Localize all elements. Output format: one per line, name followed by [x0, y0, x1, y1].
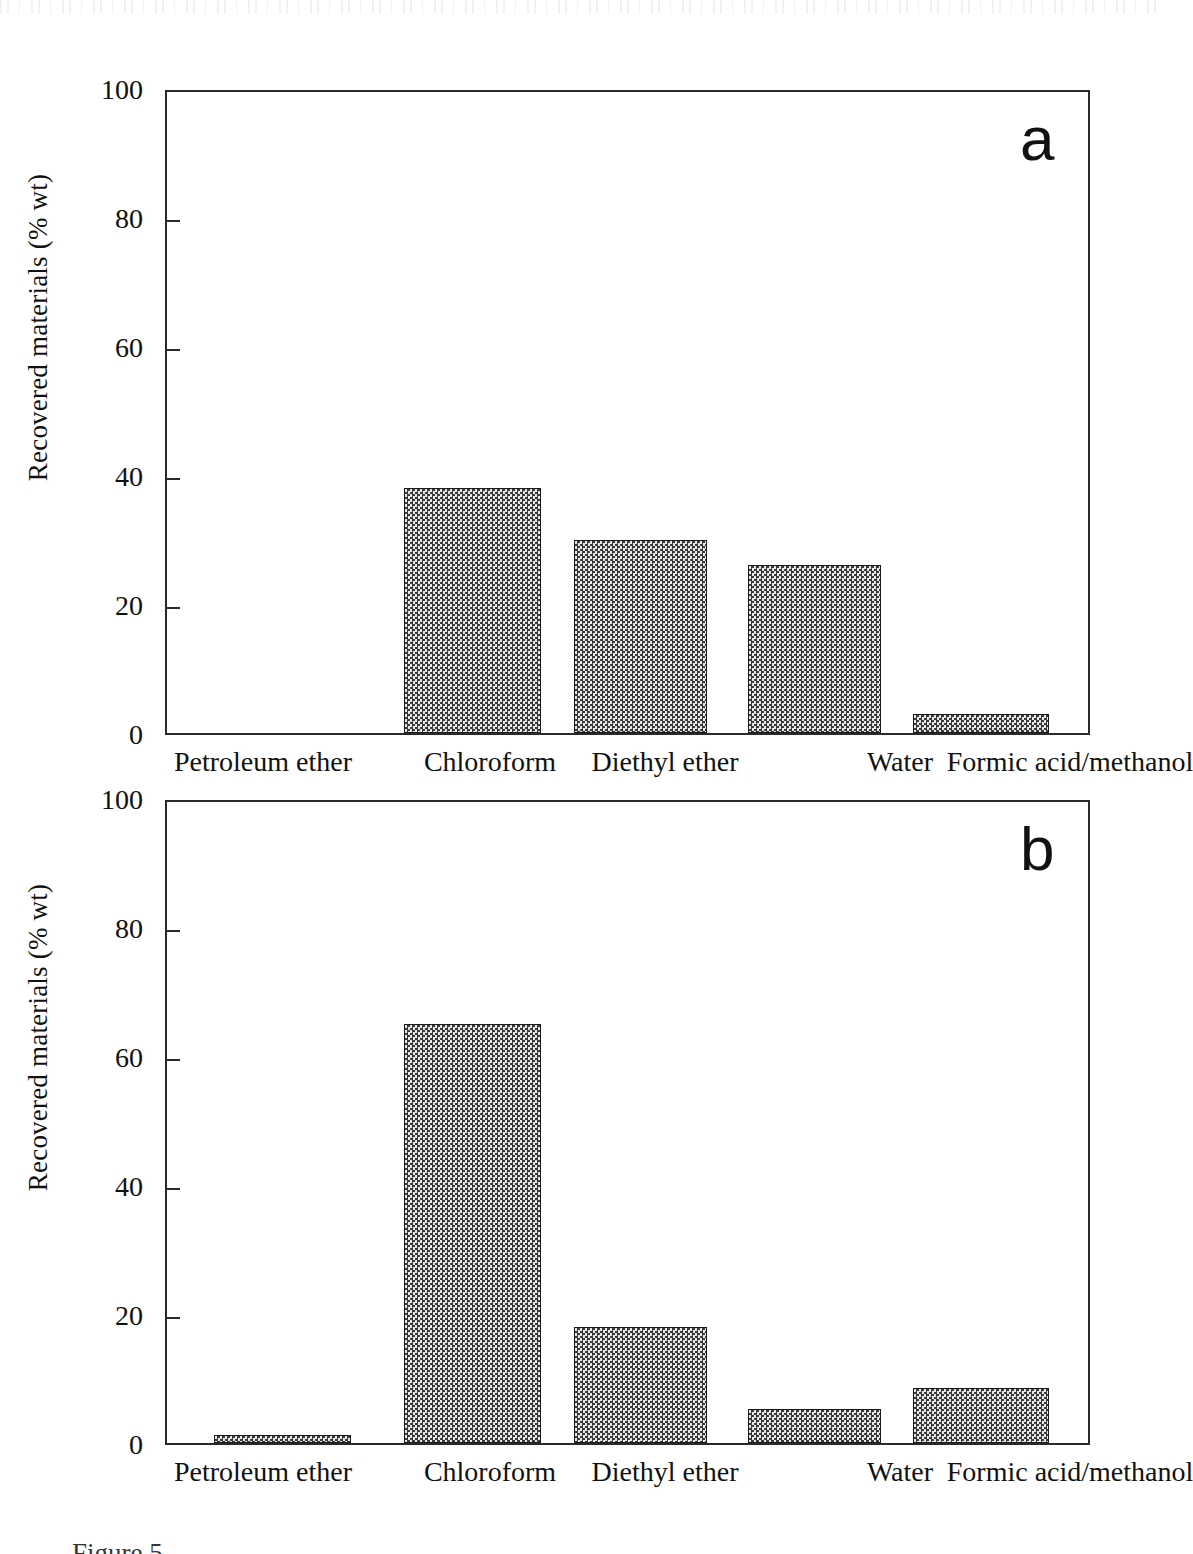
bar-a-3: [748, 565, 881, 733]
y-tick-label-a-80: 80: [115, 203, 143, 235]
x-label-a-1: Chloroform: [424, 746, 556, 778]
y-axis-title-b: Recovered materials (% wt): [23, 818, 54, 1258]
x-label-b-4: Formic acid/methanol: [947, 1456, 1193, 1488]
x-label-a-4: Formic acid/methanol: [947, 746, 1193, 778]
bar-b-4: [913, 1388, 1048, 1443]
bar-a-2: [574, 540, 707, 734]
y-tick-b-80: [167, 930, 180, 932]
y-tick-label-a-40: 40: [115, 461, 143, 493]
y-tick-label-a-60: 60: [115, 332, 143, 364]
x-category-labels-b: Petroleum etherChloroformDiethyl etherWa…: [165, 1456, 1090, 1500]
figure-caption: Figure 5: [72, 1538, 163, 1554]
bar-group-a: [167, 92, 1088, 733]
x-label-b-2: Diethyl ether: [592, 1456, 739, 1488]
bar-b-3: [748, 1409, 881, 1443]
bar-group-b: [167, 802, 1088, 1443]
bar-a-1: [404, 488, 541, 733]
x-label-b-0: Petroleum ether: [174, 1456, 352, 1488]
x-label-a-0: Petroleum ether: [174, 746, 352, 778]
x-category-labels-a: Petroleum etherChloroformDiethyl etherWa…: [165, 746, 1090, 790]
y-tick-a-60: [167, 349, 180, 351]
y-tick-label-b-40: 40: [115, 1171, 143, 1203]
bar-b-1: [404, 1024, 541, 1443]
scan-noise-strip: [0, 0, 1156, 14]
y-tick-b-20: [167, 1317, 180, 1319]
x-label-b-1: Chloroform: [424, 1456, 556, 1488]
plot-area-a: [165, 90, 1090, 735]
bar-b-2: [574, 1327, 707, 1443]
bar-b-0: [214, 1435, 351, 1443]
y-tick-label-b-80: 80: [115, 913, 143, 945]
x-label-b-3: Water: [867, 1456, 933, 1488]
y-tick-a-80: [167, 220, 180, 222]
y-tick-label-b-20: 20: [115, 1300, 143, 1332]
y-axis-title-a: Recovered materials (% wt): [23, 108, 54, 548]
y-tick-b-40: [167, 1188, 180, 1190]
panel-letter-a: a: [1020, 108, 1054, 170]
y-tick-a-40: [167, 478, 180, 480]
bar-a-4: [913, 714, 1048, 733]
y-tick-a-20: [167, 607, 180, 609]
plot-area-b: [165, 800, 1090, 1445]
y-tick-label-b-0: 0: [129, 1429, 143, 1461]
x-label-a-2: Diethyl ether: [592, 746, 739, 778]
y-tick-label-a-100: 100: [101, 74, 143, 106]
x-label-a-3: Water: [867, 746, 933, 778]
y-tick-label-b-100: 100: [101, 784, 143, 816]
panel-letter-b: b: [1020, 818, 1054, 880]
y-tick-label-a-0: 0: [129, 719, 143, 751]
y-tick-b-60: [167, 1059, 180, 1061]
y-tick-label-a-20: 20: [115, 590, 143, 622]
y-tick-label-b-60: 60: [115, 1042, 143, 1074]
